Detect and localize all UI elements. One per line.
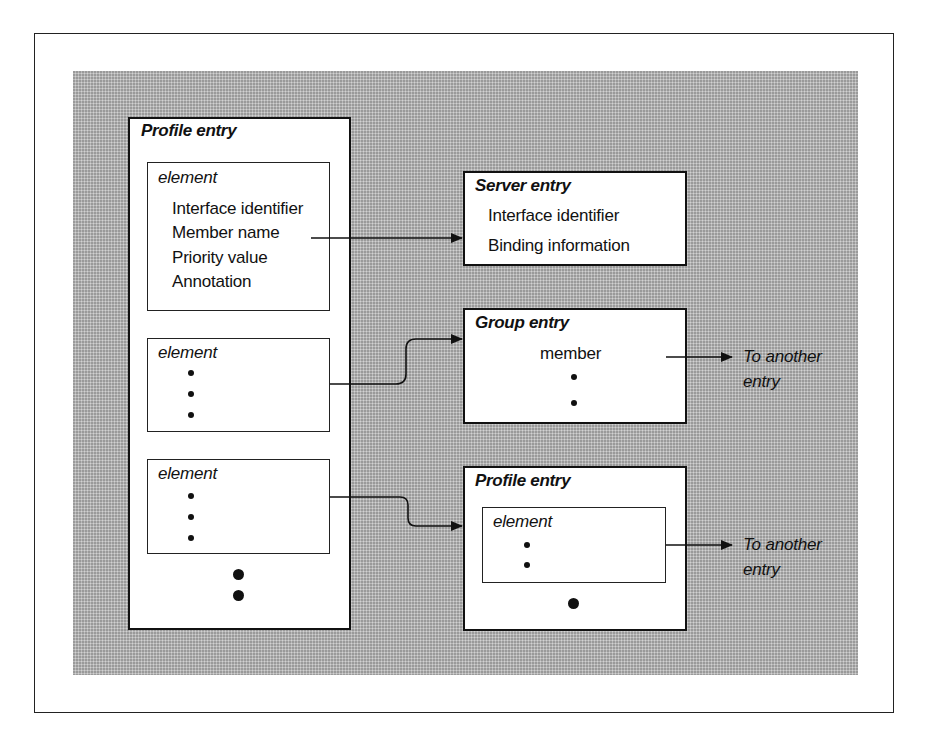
connector-arrows — [0, 0, 928, 752]
arrow-element2-to-group — [330, 339, 462, 384]
arrow-element3-to-profile — [330, 497, 462, 526]
